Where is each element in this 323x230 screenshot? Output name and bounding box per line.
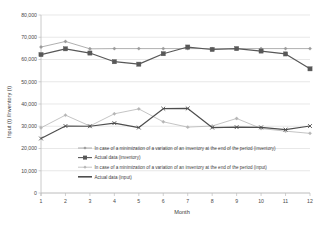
x-tick-label: 7 <box>186 198 189 204</box>
x-tick-label: 9 <box>235 198 238 204</box>
data-point-marker <box>39 53 43 57</box>
data-point-marker <box>259 49 263 53</box>
data-point-marker <box>210 47 214 51</box>
chart-background <box>0 0 323 230</box>
y-tick-label: 30,000 <box>21 123 37 129</box>
x-tick-label: 1 <box>40 198 43 204</box>
legend-label: Actual data (inventory) <box>95 155 141 160</box>
y-tick-label: 20,000 <box>21 145 37 151</box>
x-tick-label: 12 <box>307 198 313 204</box>
x-tick-label: 3 <box>88 198 91 204</box>
legend-item: In case of a minimization of a variation… <box>78 146 276 151</box>
y-tick-label: 40,000 <box>21 101 37 107</box>
data-point-marker <box>186 45 190 49</box>
legend-label: Actual data (input) <box>95 175 133 180</box>
line-chart: 010,00020,00030,00040,00050,00060,00070,… <box>0 0 323 230</box>
x-tick-label: 8 <box>211 198 214 204</box>
y-tick-label: 0 <box>34 190 37 196</box>
data-point-marker <box>161 52 165 56</box>
y-tick-label: 70,000 <box>21 34 37 40</box>
x-tick-label: 10 <box>258 198 264 204</box>
chart-container: 010,00020,00030,00040,00050,00060,00070,… <box>0 0 323 230</box>
y-tick-label: 50,000 <box>21 79 37 85</box>
x-tick-label: 6 <box>162 198 165 204</box>
y-tick-label: 80,000 <box>21 12 37 18</box>
data-point-marker <box>137 62 141 66</box>
legend-item: In case of a minimization of a variation… <box>78 165 267 170</box>
x-tick-label: 2 <box>64 198 67 204</box>
x-axis-title: Month <box>174 209 190 215</box>
legend-label: In case of a minimization of a variation… <box>95 146 277 151</box>
data-point-marker <box>308 67 312 71</box>
y-tick-label: 10,000 <box>21 168 37 174</box>
x-tick-label: 4 <box>113 198 116 204</box>
y-tick-label: 60,000 <box>21 56 37 62</box>
x-tick-label: 11 <box>283 198 288 204</box>
data-point-marker <box>63 47 67 51</box>
x-tick-label: 5 <box>137 198 140 204</box>
y-axis-title: Input (t) /Inventory (t) <box>6 86 12 138</box>
data-point-marker <box>112 60 116 64</box>
legend-label: In case of a minimization of a variation… <box>95 165 268 170</box>
legend-marker-square <box>83 156 87 160</box>
data-point-marker <box>88 51 92 55</box>
data-point-marker <box>235 46 239 50</box>
data-point-marker <box>283 52 287 56</box>
